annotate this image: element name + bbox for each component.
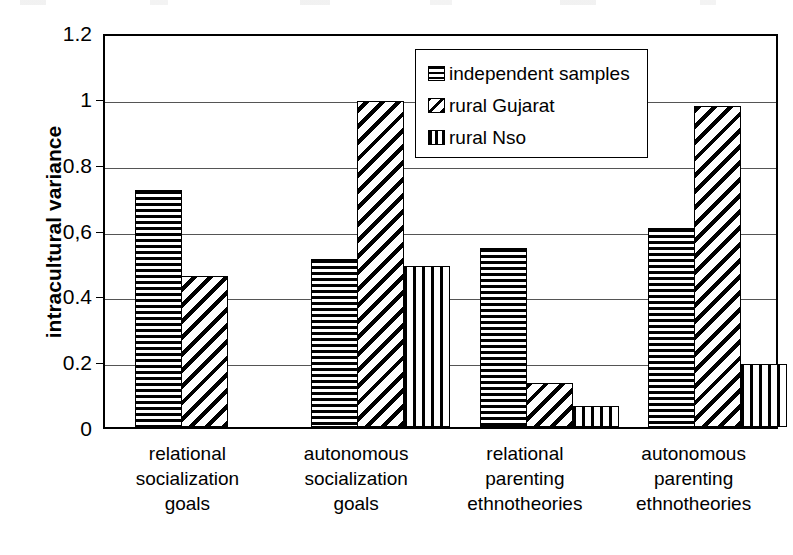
- bar: [480, 248, 527, 427]
- legend-item: rural Gujarat: [428, 89, 647, 121]
- y-axis-tick-label: 0.8: [30, 155, 92, 176]
- bar: [403, 266, 450, 427]
- legend: independent samples rural Gujarat rural …: [415, 49, 648, 158]
- y-axis-tick-mark: [96, 363, 103, 364]
- legend-label: independent samples: [449, 64, 630, 83]
- y-axis-tick-label: 0.2: [30, 352, 92, 373]
- legend-swatch-vertical-stripes-icon: [428, 130, 445, 145]
- y-axis-tick-mark: [96, 232, 103, 233]
- y-axis-tick-mark: [96, 100, 103, 101]
- y-axis-tick-label: 0: [30, 418, 92, 439]
- bar: [311, 259, 358, 427]
- y-axis-tick-label: 1.2: [30, 23, 92, 44]
- x-axis-category-label: relational parenting ethnotheories: [433, 441, 618, 516]
- bar: [572, 406, 619, 427]
- y-axis-tick-label: 0,6: [30, 221, 92, 242]
- legend-item: independent samples: [428, 57, 647, 89]
- gridline: [105, 168, 776, 169]
- x-axis-category-label: autonomous parenting ethnotheories: [601, 441, 786, 516]
- bar: [357, 101, 404, 427]
- bar: [740, 364, 787, 427]
- y-axis-tick-label: 1: [30, 89, 92, 110]
- legend-swatch-horizontal-stripes-icon: [428, 66, 445, 81]
- x-axis-category-label: autonomous socialization goals: [264, 441, 449, 516]
- y-axis-tick-mark: [96, 297, 103, 298]
- bar: [694, 106, 741, 427]
- y-axis-tick-mark: [96, 166, 103, 167]
- x-axis-category-label: relational socialization goals: [95, 441, 280, 516]
- legend-swatch-diagonal-hatch-icon: [428, 98, 445, 113]
- bar: [526, 383, 573, 427]
- y-axis-tick-label: 0.4: [30, 286, 92, 307]
- legend-label: rural Nso: [449, 128, 526, 147]
- legend-label: rural Gujarat: [449, 96, 555, 115]
- legend-item: rural Nso: [428, 121, 647, 153]
- bar: [135, 190, 182, 427]
- bar: [181, 276, 228, 427]
- bar: [648, 228, 695, 427]
- bar-chart: intracultural variance 00.20.40,60.811.2…: [0, 0, 793, 555]
